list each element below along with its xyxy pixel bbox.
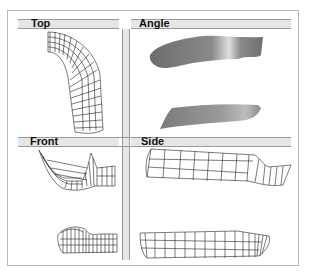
panel-label-top: Top — [31, 18, 50, 29]
top-view-wireframe — [45, 30, 105, 135]
panel-label-angle: Angle — [139, 18, 170, 29]
panel-label-front: Front — [30, 136, 58, 147]
panel-label-side: Side — [141, 136, 164, 147]
front-view-wireframe-lower — [55, 225, 120, 257]
angle-view-surface-upper — [148, 33, 268, 73]
angle-view-surface-lower — [158, 102, 268, 132]
side-view-wireframe-upper — [143, 147, 293, 189]
front-view-wireframe-upper — [37, 148, 117, 193]
side-view-wireframe-lower — [137, 228, 282, 260]
